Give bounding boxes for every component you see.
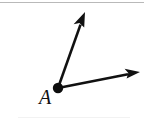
lower-ray-shaft bbox=[58, 74, 128, 88]
upper-ray-shaft bbox=[58, 25, 81, 88]
bottom-scan-artifact bbox=[18, 117, 130, 118]
angle-diagram-canvas: A bbox=[0, 0, 144, 123]
vertex-label-A: A bbox=[33, 85, 57, 109]
angle-vector-graphic bbox=[0, 0, 144, 123]
